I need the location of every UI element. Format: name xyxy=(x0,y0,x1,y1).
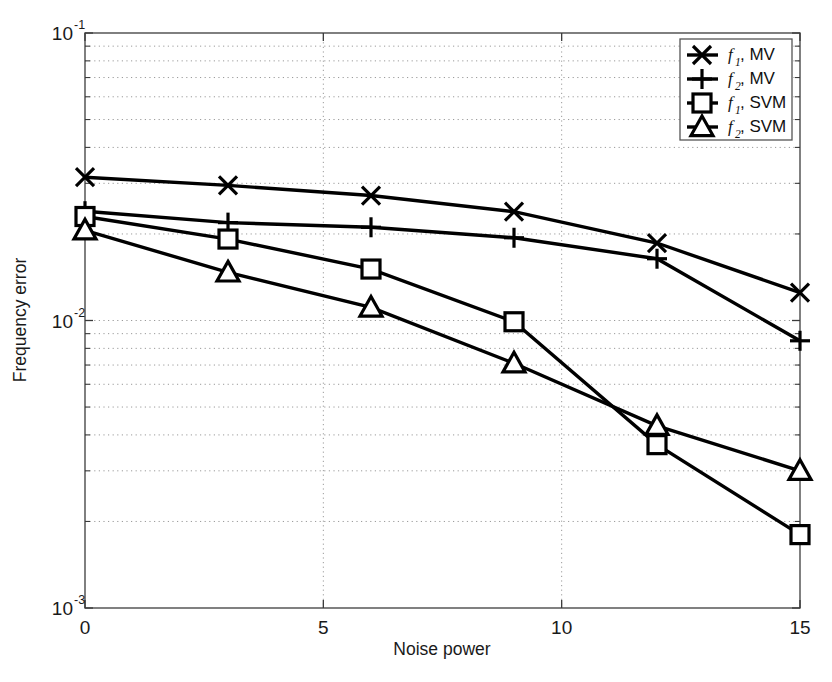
svg-text:-3: -3 xyxy=(74,593,85,607)
x-tick-label: 0 xyxy=(80,617,91,638)
data-point-marker-square xyxy=(648,436,666,454)
data-point-marker-square xyxy=(791,526,809,544)
x-tick-label: 10 xyxy=(551,617,572,638)
x-tick-label: 5 xyxy=(318,617,329,638)
svg-text:-2: -2 xyxy=(74,306,85,320)
x-tick-label: 15 xyxy=(789,617,810,638)
chart-figure: 10-110-210-3 051015 Noise power Frequenc… xyxy=(0,0,832,682)
data-point-marker-square xyxy=(219,230,237,248)
legend-label-rest: , MV xyxy=(740,69,776,88)
legend-label-rest: , SVM xyxy=(740,117,786,136)
data-point-marker-square xyxy=(693,94,711,112)
y-axis-title: Frequency error xyxy=(10,258,30,383)
svg-text:-1: -1 xyxy=(74,18,85,32)
legend: f1, MVf2, MVf1, SVMf2, SVM xyxy=(680,39,792,140)
x-axis-title: Noise power xyxy=(393,639,490,659)
data-point-marker-square xyxy=(505,313,523,331)
frequency-error-line-chart: 10-110-210-3 051015 Noise power Frequenc… xyxy=(0,0,832,682)
svg-text:10: 10 xyxy=(52,311,73,332)
data-point-marker-square xyxy=(362,260,380,278)
legend-label-rest: , SVM xyxy=(740,93,786,112)
legend-label-rest: , MV xyxy=(740,45,776,64)
svg-text:10: 10 xyxy=(52,23,73,44)
svg-text:10: 10 xyxy=(52,598,73,619)
